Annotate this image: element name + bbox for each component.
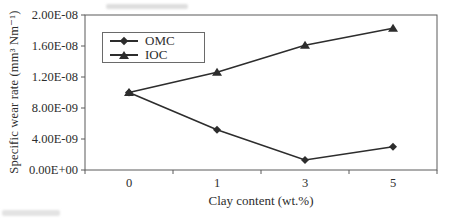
- ioc-line-sample: [110, 50, 138, 60]
- legend-item-ioc: IOC: [110, 48, 198, 62]
- y-tick-label: 1.60E-08: [32, 39, 78, 53]
- x-axis-title: Clay content (wt.%): [208, 193, 313, 209]
- diamond-marker-omc: [213, 126, 221, 134]
- y-tick-label: 8.00E-09: [32, 101, 78, 115]
- diamond-marker-icon: [120, 37, 128, 45]
- x-tick-label: 3: [302, 176, 308, 190]
- y-tick-label: 4.00E-09: [32, 132, 78, 146]
- diamond-marker-omc: [301, 156, 309, 164]
- triangle-marker-icon: [119, 51, 129, 59]
- x-tick-label: 0: [126, 176, 132, 190]
- x-tick-label: 5: [390, 176, 396, 190]
- legend-label-ioc: IOC: [145, 48, 167, 62]
- omc-line-sample: [110, 36, 138, 46]
- wear-rate-figure: 0.00E+004.00E-098.00E-091.20E-081.60E-08…: [0, 0, 449, 220]
- triangle-marker-ioc: [388, 24, 398, 32]
- legend-item-omc: OMC: [110, 34, 198, 48]
- cropped-caption-artifact: [2, 210, 60, 216]
- x-tick-label: 1: [214, 176, 220, 190]
- legend-label-omc: OMC: [145, 34, 175, 48]
- y-axis-title: Specific wear rate (mm³ Nm⁻¹): [6, 10, 22, 173]
- series-line-omc: [129, 93, 393, 160]
- y-tick-label: 0.00E+00: [29, 163, 78, 177]
- legend: OMC IOC: [102, 32, 205, 63]
- plot-area: 0.00E+004.00E-098.00E-091.20E-081.60E-08…: [0, 0, 449, 220]
- diamond-marker-omc: [389, 143, 397, 151]
- y-tick-label: 2.00E-08: [32, 8, 78, 22]
- y-tick-label: 1.20E-08: [32, 70, 78, 84]
